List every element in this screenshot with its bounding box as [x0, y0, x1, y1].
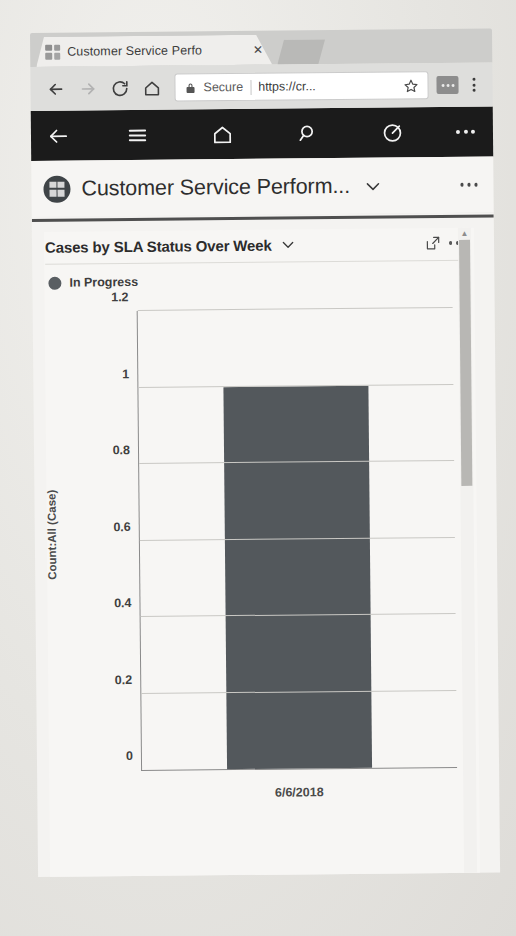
reload-icon[interactable]: [104, 73, 134, 103]
chevron-down-icon[interactable]: [363, 176, 382, 195]
kebab-menu-icon[interactable]: [463, 78, 483, 92]
bookmark-star-icon[interactable]: [403, 78, 418, 93]
expand-icon[interactable]: [424, 235, 440, 251]
url-text[interactable]: https://cr...: [258, 78, 397, 93]
y-axis-tick-label: 0.6: [113, 520, 131, 534]
extensions-icon[interactable]: [436, 76, 458, 94]
chart-legend: In Progress: [44, 261, 474, 294]
tab-strip: Customer Service Perfo ✕: [30, 29, 492, 67]
advanced-find-icon[interactable]: [350, 107, 435, 158]
page-title: Customer Service Perform...: [81, 173, 350, 201]
legend-item-label[interactable]: In Progress: [69, 275, 138, 290]
dashboard-content: Cases by SLA Status Over Week In Progres…: [32, 213, 500, 877]
tab-title: Customer Service Perfo: [67, 43, 250, 59]
site-map-hamburger-icon[interactable]: [95, 110, 180, 161]
y-axis-tick-label: 0.2: [115, 673, 133, 687]
y-axis-title-text: Count:All (Case): [45, 490, 58, 580]
tab-strip-empty-area[interactable]: [277, 39, 325, 64]
lock-icon: [184, 81, 196, 94]
grid-favicon-icon: [45, 44, 60, 59]
app-page-header: Customer Service Perform...: [31, 157, 494, 217]
home-icon[interactable]: [180, 109, 265, 160]
omnibox-separator: [250, 79, 251, 94]
browser-window: ⌄ – ⊔ ⌃ Customer Service Perfo ✕: [30, 29, 500, 877]
chevron-down-icon[interactable]: [280, 236, 296, 252]
home-icon[interactable]: [136, 73, 166, 103]
y-axis-tick-label: 1.2: [111, 290, 129, 304]
security-status-label: Secure: [203, 80, 243, 94]
browser-tab-active[interactable]: Customer Service Perfo ✕: [36, 35, 272, 67]
app-overflow-ellipsis-icon[interactable]: [435, 107, 493, 158]
content-top-divider: [32, 215, 494, 222]
back-arrow-icon[interactable]: [40, 74, 70, 104]
chart-card-header: Cases by SLA Status Over Week: [44, 228, 474, 262]
dynamics-grid-logo-icon: [43, 175, 70, 202]
forward-arrow-icon: [72, 73, 102, 103]
close-icon[interactable]: ✕: [250, 43, 266, 57]
x-axis-tick-label: 6/6/2018: [275, 785, 324, 799]
app-command-bar: [31, 107, 493, 161]
legend-swatch: [48, 276, 61, 289]
app-back-button[interactable]: [31, 110, 95, 161]
chart-header-spacer: [304, 243, 417, 244]
bar[interactable]: [223, 385, 372, 769]
x-axis-labels: 6/6/2018: [141, 784, 457, 801]
y-axis-tick-label: 0.8: [113, 443, 131, 457]
browser-toolbar: Secure https://cr...: [30, 63, 492, 111]
plot-area: 00.20.40.60.811.2: [137, 308, 457, 771]
search-icon[interactable]: [265, 108, 350, 159]
chart-title: Cases by SLA Status Over Week: [45, 236, 272, 255]
page-overflow-ellipsis-icon[interactable]: [460, 183, 480, 187]
address-bar[interactable]: Secure https://cr...: [174, 71, 428, 101]
scrollbar-thumb[interactable]: [459, 240, 472, 486]
y-axis-title: Count:All (Case): [41, 300, 64, 770]
y-axis-tick-label: 0: [126, 749, 133, 763]
chart-card: Cases by SLA Status Over Week In Progres…: [44, 228, 480, 877]
chart-plot-wrapper: Count:All (Case) 00.20.40.60.811.2 6/6/2…: [45, 296, 480, 820]
y-axis-tick-label: 0.4: [114, 596, 132, 610]
y-axis-tick-label: 1: [122, 367, 129, 381]
scroll-up-arrow-icon[interactable]: ▲: [458, 229, 471, 238]
